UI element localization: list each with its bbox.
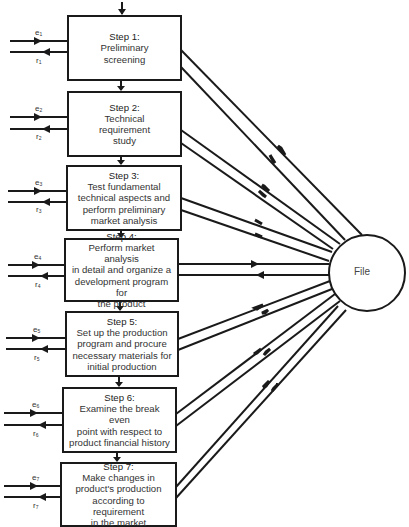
step-6-line-2: point with respect to	[77, 426, 162, 437]
input-label-e5: e5	[33, 325, 40, 334]
step-1-line-1: Preliminary	[101, 42, 149, 53]
input-label-e6: e6	[32, 400, 39, 409]
step-5-line-4: initial production	[87, 361, 156, 372]
input-label-e3: e3	[35, 178, 42, 187]
step-3-title: Step 3:	[109, 170, 139, 181]
step-5-box: Step 5: Set up the production program an…	[65, 311, 179, 377]
step-6-title: Step 6:	[104, 392, 134, 403]
step-4-line-3: development program for	[70, 276, 173, 298]
input-label-e7: e7	[32, 473, 39, 482]
step-1-box: Step 1: Preliminary screening	[67, 15, 182, 81]
step-3-line-2: technical aspects and	[78, 192, 170, 203]
step-4-line-4: the product	[97, 298, 145, 309]
step-7-box: Step 7: Make changes in product's produc…	[60, 462, 177, 527]
step-3-line-4: market analysis	[91, 215, 158, 226]
step-3-box: Step 3: Test fundamental technical aspec…	[66, 165, 182, 231]
step-6-line-1: Examine the break even	[68, 403, 171, 425]
step-6-line-3: product financial history	[69, 437, 170, 448]
step-2-line-2: requirement	[99, 124, 150, 135]
step-2-line-3: study	[113, 135, 136, 146]
output-label-r3: r3	[36, 205, 41, 214]
output-label-r7: r7	[33, 501, 38, 510]
step-1-title: Step 1:	[109, 31, 139, 42]
step-4-title: Step 4:	[106, 231, 136, 242]
step-7-line-2: product's production	[75, 483, 161, 494]
step-3-line-3: perform preliminary	[83, 204, 166, 215]
step-7-line-1: Make changes in	[82, 472, 155, 483]
step-5-line-3: necessary materials for	[72, 350, 171, 361]
step-2-line-1: Technical	[105, 113, 145, 124]
output-label-r2: r2	[36, 132, 41, 141]
step-2-title: Step 2:	[109, 102, 139, 113]
step-7-line-3: according to requirement	[66, 495, 171, 517]
step-1-line-2: screening	[104, 54, 146, 65]
input-label-e1: e1	[35, 28, 42, 37]
step-4-line-2: in detail and organize a	[72, 264, 171, 275]
input-label-e2: e2	[35, 104, 42, 113]
step-4-box: Step 4: Perform market analysis in detai…	[64, 238, 179, 302]
file-node-label: File	[354, 266, 370, 277]
output-label-r6: r6	[33, 429, 38, 438]
step-2-box: Step 2: Technical requirement study	[67, 91, 182, 157]
step-5-line-2: program and procure	[77, 338, 167, 349]
step-7-line-4: in the market	[91, 517, 146, 527]
step-5-line-1: Set up the production	[76, 327, 167, 338]
step-5-title: Step 5:	[107, 316, 137, 327]
step-7-title: Step 7:	[103, 461, 133, 472]
output-label-r5: r5	[34, 353, 39, 362]
output-label-r1: r1	[36, 56, 41, 65]
step-6-box: Step 6: Examine the break even point wit…	[62, 387, 177, 453]
input-label-e4: e4	[34, 252, 41, 261]
step-4-line-1: Perform market analysis	[70, 242, 173, 264]
step-3-line-1: Test fundamental	[87, 181, 160, 192]
output-label-r4: r4	[35, 280, 40, 289]
